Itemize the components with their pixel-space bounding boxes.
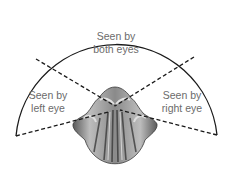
label-right-eye: Seen by right eye <box>157 89 207 115</box>
label-left-line2: left eye <box>26 102 70 115</box>
head-top-view-icon <box>73 87 157 164</box>
label-right-line2: right eye <box>157 102 207 115</box>
label-both-eyes: Seen by both eyes <box>88 30 144 56</box>
label-left-eye: Seen by left eye <box>26 89 70 115</box>
label-both-line1: Seen by <box>88 30 144 43</box>
label-left-line1: Seen by <box>26 89 70 102</box>
label-both-line2: both eyes <box>88 43 144 56</box>
label-right-line1: Seen by <box>157 89 207 102</box>
